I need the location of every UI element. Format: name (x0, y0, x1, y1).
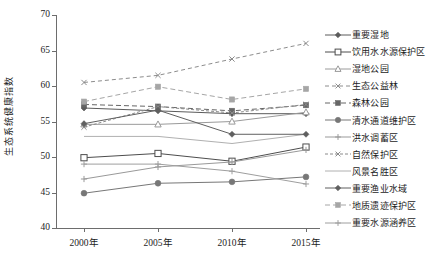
legend-marker-icon (324, 28, 352, 42)
legend-label: 清水通道维护区 (352, 114, 416, 127)
series-10 (81, 84, 308, 104)
series-5 (81, 174, 309, 196)
chart-figure: 生态系统健康指数 40455055606570 2000年2005年2010年2… (0, 0, 447, 264)
legend-label: 重要渔业水域 (352, 182, 407, 195)
y-tick-label: 50 (41, 152, 51, 162)
x-axis-line (56, 228, 320, 229)
legend-label: 生态公益林 (352, 79, 398, 92)
y-tick-label: 40 (41, 223, 51, 233)
x-tick (232, 228, 233, 232)
legend-marker-icon (324, 147, 352, 161)
x-tick-label: 2005年 (144, 235, 173, 249)
series-canvas (56, 15, 320, 228)
y-tick-label: 70 (41, 10, 51, 20)
y-tick-label: 60 (41, 81, 51, 91)
x-tick (84, 228, 85, 232)
series-8 (84, 134, 306, 143)
legend-marker-icon (324, 45, 352, 59)
legend-label: 自然保护区 (352, 148, 398, 161)
legend-marker-icon (324, 181, 352, 195)
legend-item[interactable]: 清水通道维护区 (324, 111, 447, 128)
legend-item[interactable]: 风景名胜区 (324, 163, 447, 180)
y-tick-label: 55 (41, 117, 51, 127)
legend-marker-icon (324, 164, 352, 178)
x-tick-label: 2010年 (218, 235, 247, 249)
series-4 (81, 102, 308, 114)
legend-item[interactable]: 湿地公园 (324, 60, 447, 77)
legend-label: 洪水调蓄区 (352, 131, 398, 144)
legend-item[interactable]: 自然保护区 (324, 146, 447, 163)
series-9 (81, 107, 309, 137)
legend-item[interactable]: 洪水调蓄区 (324, 129, 447, 146)
plot-area: 40455055606570 2000年2005年2010年2015年 (56, 15, 320, 228)
series-0 (81, 105, 309, 117)
y-axis-title: 生态系统健康指数 (2, 0, 15, 46)
legend-label: 地质遗迹保护区 (352, 199, 416, 212)
legend-label: 森林公园 (352, 96, 389, 109)
legend-marker-icon (324, 198, 352, 212)
series-3 (81, 41, 308, 85)
legend-marker-icon (324, 62, 352, 76)
legend-item[interactable]: 地质遗迹保护区 (324, 197, 447, 214)
legend-item[interactable]: 饮用水水源保护区 (324, 43, 447, 60)
legend-marker-icon (324, 216, 352, 230)
legend-label: 重要水源涵养区 (352, 216, 416, 229)
legend-item[interactable]: 重要渔业水域 (324, 180, 447, 197)
legend-item[interactable]: 森林公园 (324, 94, 447, 111)
legend-marker-icon (324, 130, 352, 144)
legend-item[interactable]: 重要水源涵养区 (324, 214, 447, 231)
x-tick (158, 228, 159, 232)
legend-item[interactable]: 重要湿地 (324, 26, 447, 43)
legend-item[interactable]: 生态公益林 (324, 77, 447, 94)
legend-label: 重要湿地 (352, 28, 389, 41)
chart-legend: 重要湿地饮用水水源保护区湿地公园生态公益林森林公园清水通道维护区洪水调蓄区自然保… (324, 26, 447, 231)
x-tick-label: 2015年 (292, 235, 321, 249)
legend-label: 湿地公园 (352, 62, 389, 75)
legend-marker-icon (324, 96, 352, 110)
series-1 (81, 144, 309, 164)
x-tick (306, 228, 307, 232)
x-tick-label: 2000年 (70, 235, 99, 249)
y-tick-label: 45 (41, 188, 51, 198)
y-tick (52, 228, 56, 229)
legend-label: 风景名胜区 (352, 165, 398, 178)
legend-marker-icon (324, 113, 352, 127)
legend-label: 饮用水水源保护区 (352, 45, 426, 58)
y-tick-label: 65 (41, 46, 51, 56)
legend-marker-icon (324, 79, 352, 93)
